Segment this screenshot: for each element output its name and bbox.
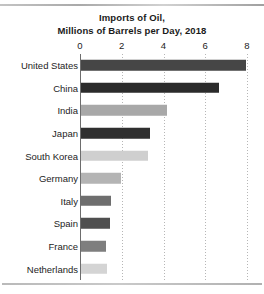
figure-bottom-rule bbox=[2, 283, 262, 285]
bar-row: Germany bbox=[0, 167, 264, 190]
x-tick-label-6: 6 bbox=[193, 40, 217, 51]
category-label-spain: Spain bbox=[0, 218, 78, 229]
x-tick-label-0: 0 bbox=[68, 40, 92, 51]
figure-top-rule bbox=[0, 4, 264, 6]
bar-netherlands bbox=[81, 263, 107, 274]
bar-row: France bbox=[0, 235, 264, 258]
category-label-japan: Japan bbox=[0, 128, 78, 139]
chart-title-line-1: Imports of Oil, bbox=[99, 12, 165, 23]
chart-title-line-2: Millions of Barrels per Day, 2018 bbox=[0, 25, 264, 38]
bar-china bbox=[81, 83, 219, 94]
bar-row: Spain bbox=[0, 212, 264, 235]
category-label-india: India bbox=[0, 105, 78, 116]
bar-france bbox=[81, 241, 106, 252]
category-label-germany: Germany bbox=[0, 173, 78, 184]
x-tick-label-2: 2 bbox=[110, 40, 134, 51]
bar-row: India bbox=[0, 99, 264, 122]
bar-row: China bbox=[0, 77, 264, 100]
x-tick-label-8: 8 bbox=[235, 40, 259, 51]
x-axis-tick-labels: 02468 bbox=[0, 40, 264, 54]
bar-italy bbox=[81, 196, 111, 207]
bar-row: Netherlands bbox=[0, 257, 264, 280]
bar-japan bbox=[81, 128, 150, 139]
category-label-united-states: United States bbox=[0, 60, 78, 71]
chart-title: Imports of Oil, Millions of Barrels per … bbox=[0, 12, 264, 37]
bar-spain bbox=[81, 218, 110, 229]
bar-row: Italy bbox=[0, 190, 264, 213]
bar-row: Japan bbox=[0, 122, 264, 145]
category-label-netherlands: Netherlands bbox=[0, 263, 78, 274]
bar-india bbox=[81, 105, 167, 116]
bar-south-korea bbox=[81, 150, 148, 161]
bar-germany bbox=[81, 173, 121, 184]
oil-imports-bar-chart-figure: Imports of Oil, Millions of Barrels per … bbox=[0, 0, 264, 294]
bar-united-states bbox=[81, 60, 246, 71]
bar-series: United StatesChinaIndiaJapanSouth KoreaG… bbox=[0, 54, 264, 280]
category-label-china: China bbox=[0, 82, 78, 93]
bar-row: United States bbox=[0, 54, 264, 77]
category-label-south-korea: South Korea bbox=[0, 150, 78, 161]
x-tick-label-4: 4 bbox=[152, 40, 176, 51]
plot-area: 02468 United StatesChinaIndiaJapanSouth … bbox=[0, 40, 264, 280]
bar-row: South Korea bbox=[0, 144, 264, 167]
category-label-france: France bbox=[0, 241, 78, 252]
category-label-italy: Italy bbox=[0, 195, 78, 206]
